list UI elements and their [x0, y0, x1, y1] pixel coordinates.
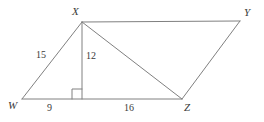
figure-strokes [22, 21, 240, 99]
segment-yz [182, 21, 240, 99]
right-angle-marker-icon [72, 89, 82, 99]
geometry-figure: W X Y Z 15 12 9 16 [0, 0, 264, 122]
vertex-label-x: X [72, 6, 79, 17]
measure-label-fz: 16 [124, 103, 134, 113]
measure-label-wf: 9 [47, 103, 52, 113]
vertex-label-y: Y [244, 7, 250, 18]
vertex-label-w: W [8, 100, 17, 111]
segment-xz [82, 22, 182, 99]
measure-label-wx: 15 [36, 50, 46, 60]
measure-label-altitude: 12 [86, 51, 96, 61]
segment-xy [82, 21, 240, 22]
vertex-label-z: Z [184, 102, 190, 113]
segment-wx [22, 22, 82, 99]
